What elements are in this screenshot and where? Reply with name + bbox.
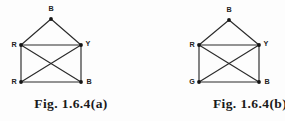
graph-vertex — [79, 43, 83, 47]
figure-b-caption: Fig. 1.6.4(b) — [143, 96, 285, 112]
graph-diagram-b: BRYGB — [143, 0, 285, 95]
graph-vertex — [79, 80, 83, 84]
graph-vertex-label: R — [11, 77, 17, 86]
graph-vertex-label: Y — [86, 39, 91, 48]
graph-vertex-label: B — [86, 77, 91, 86]
graph-vertex-label: Y — [264, 39, 269, 48]
graph-vertex — [257, 80, 261, 84]
graph-edge — [21, 19, 51, 45]
graph-edge — [199, 20, 229, 45]
graph-vertex-label: G — [189, 77, 195, 86]
graph-vertex — [227, 18, 231, 22]
figure-page: BRYRB Fig. 1.6.4(a) BRYGB Fig. 1.6.4(b) — [0, 0, 285, 121]
figure-a: BRYRB Fig. 1.6.4(a) — [0, 0, 142, 121]
graph-vertex — [19, 43, 23, 47]
graph-vertex-label: B — [264, 77, 269, 86]
graph-vertex — [19, 80, 23, 84]
graph-edge — [51, 19, 81, 45]
graph-vertex — [197, 80, 201, 84]
graph-edge — [229, 20, 259, 45]
graph-vertex — [197, 43, 201, 47]
graph-vertex-label: B — [226, 5, 231, 14]
graph-vertex — [257, 43, 261, 47]
figure-b: BRYGB Fig. 1.6.4(b) — [143, 0, 285, 121]
graph-vertex-label: R — [11, 40, 17, 49]
graph-diagram-a: BRYRB — [0, 0, 142, 95]
graph-vertex — [49, 17, 53, 21]
graph-vertex-label: R — [189, 40, 195, 49]
graph-vertex-label: B — [48, 4, 53, 13]
